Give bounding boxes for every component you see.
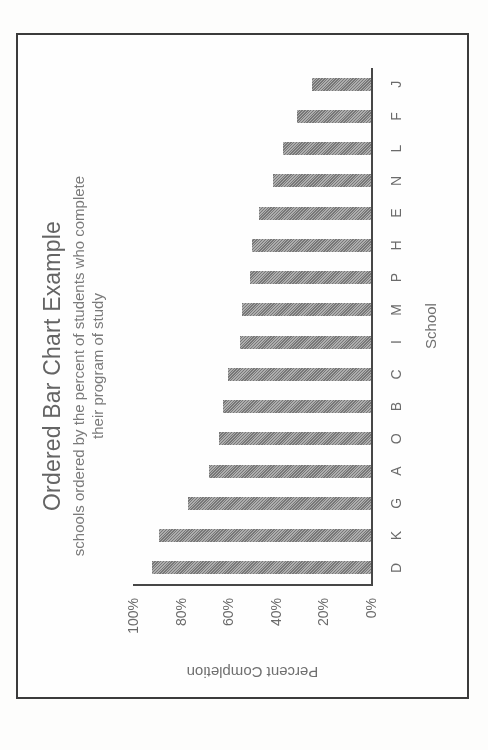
- bar-P: [249, 271, 370, 284]
- x-label-D: D: [388, 552, 404, 584]
- y-tick-60%: 60%: [220, 598, 236, 626]
- bar-F: [297, 110, 371, 123]
- x-axis-labels: DKGAOBCIMPHENLFJ: [388, 68, 404, 584]
- scanned-page: Ordered Bar Chart Example schools ordere…: [0, 0, 488, 750]
- bar-slot-N: [133, 165, 371, 197]
- x-label-A: A: [388, 455, 404, 487]
- rotated-chart-container: Ordered Bar Chart Example schools ordere…: [38, 46, 448, 686]
- bar-slot-J: [133, 68, 371, 100]
- y-tick-40%: 40%: [267, 598, 283, 626]
- bar-B: [223, 400, 371, 413]
- bar-slot-A: [133, 455, 371, 487]
- x-label-N: N: [388, 165, 404, 197]
- bar-chart: Ordered Bar Chart Example schools ordere…: [38, 46, 448, 686]
- bar-slot-D: [133, 552, 371, 584]
- x-label-P: P: [388, 262, 404, 294]
- bar-N: [273, 174, 371, 187]
- bar-K: [159, 529, 371, 542]
- bar-slot-B: [133, 391, 371, 423]
- bars-group: [133, 68, 371, 584]
- bar-M: [242, 303, 371, 316]
- y-tick-0%: 0%: [363, 598, 379, 618]
- bar-slot-E: [133, 197, 371, 229]
- bar-slot-G: [133, 487, 371, 519]
- x-label-F: F: [388, 100, 404, 132]
- x-label-E: E: [388, 197, 404, 229]
- bar-H: [252, 239, 371, 252]
- bar-slot-H: [133, 229, 371, 261]
- figure-frame: Ordered Bar Chart Example schools ordere…: [16, 33, 469, 699]
- bar-C: [228, 368, 371, 381]
- y-axis-ticks: 0%20%40%60%80%100%: [133, 592, 371, 686]
- bar-slot-P: [133, 262, 371, 294]
- y-tick-80%: 80%: [172, 598, 188, 626]
- x-label-J: J: [388, 68, 404, 100]
- x-label-H: H: [388, 229, 404, 261]
- chart-title: Ordered Bar Chart Example: [39, 46, 66, 686]
- x-label-L: L: [388, 133, 404, 165]
- y-tick-20%: 20%: [315, 598, 331, 626]
- bar-O: [218, 432, 370, 445]
- bar-I: [240, 336, 371, 349]
- bar-D: [152, 561, 371, 574]
- x-label-K: K: [388, 520, 404, 552]
- bar-G: [187, 497, 370, 510]
- plot-area: [133, 68, 373, 586]
- x-label-G: G: [388, 487, 404, 519]
- x-label-C: C: [388, 358, 404, 390]
- x-label-M: M: [388, 294, 404, 326]
- x-label-B: B: [388, 391, 404, 423]
- bar-slot-C: [133, 358, 371, 390]
- bar-slot-O: [133, 423, 371, 455]
- x-label-I: I: [388, 326, 404, 358]
- chart-subtitle: schools ordered by the percent of studen…: [69, 46, 107, 686]
- bar-slot-M: [133, 294, 371, 326]
- bar-slot-K: [133, 520, 371, 552]
- chart-subtitle-line-1: schools ordered by the percent of studen…: [69, 46, 88, 686]
- bar-slot-I: [133, 326, 371, 358]
- bar-L: [282, 142, 370, 155]
- chart-subtitle-line-2: their program of study: [88, 46, 107, 686]
- bar-E: [259, 207, 371, 220]
- bar-J: [311, 78, 371, 91]
- x-axis-title: School: [422, 68, 439, 584]
- bar-slot-L: [133, 133, 371, 165]
- y-tick-100%: 100%: [125, 598, 141, 634]
- x-label-O: O: [388, 423, 404, 455]
- bar-A: [209, 465, 371, 478]
- bar-slot-F: [133, 100, 371, 132]
